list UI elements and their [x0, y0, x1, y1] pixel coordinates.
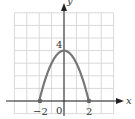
- y-axis-label: y: [66, 0, 73, 6]
- endpoint-left: [38, 99, 43, 104]
- tick-label-2: 2: [86, 106, 92, 117]
- x-axis-arrow-icon: [116, 98, 124, 104]
- x-axis-label: x: [126, 95, 132, 106]
- parabola-chart: x y −2 0 2 4: [0, 0, 135, 119]
- tick-label-0: 0: [56, 105, 62, 116]
- endpoint-right: [87, 99, 92, 104]
- tick-label-neg2: −2: [33, 106, 48, 117]
- tick-label-y4: 4: [56, 39, 62, 50]
